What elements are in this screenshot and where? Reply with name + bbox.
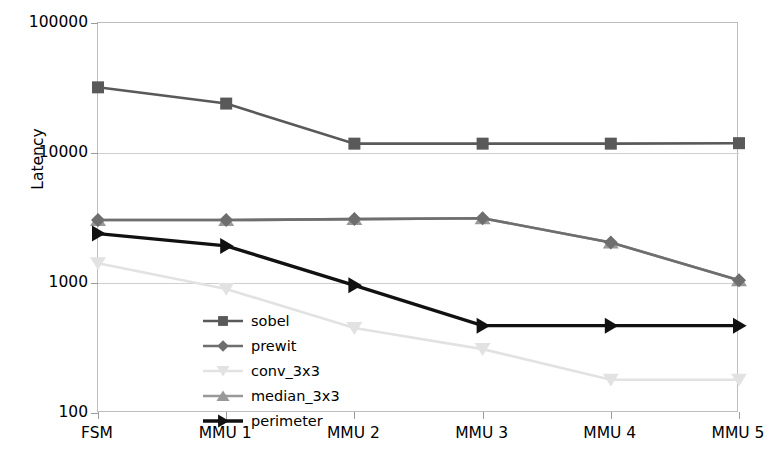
y-tick-mark	[91, 283, 98, 284]
data-point-marker	[92, 81, 104, 93]
series-prewit	[91, 211, 746, 287]
data-point-marker	[348, 138, 360, 150]
legend-item-median_3x3[interactable]: median_3x3	[201, 383, 376, 408]
legend-marker-icon	[201, 337, 245, 355]
y-tick-mark	[91, 23, 98, 24]
x-tick-mark	[739, 412, 740, 419]
series-sobel	[92, 81, 745, 149]
series-line	[98, 87, 739, 143]
x-tick-label: MMU 3	[455, 424, 508, 442]
series-perimeter	[92, 226, 747, 334]
series-line	[98, 263, 739, 380]
series-line	[98, 234, 739, 326]
legend-marker-icon	[201, 362, 245, 380]
data-point-marker	[733, 137, 745, 149]
legend-label: conv_3x3	[251, 363, 320, 379]
data-point-marker	[348, 277, 362, 293]
series-line	[98, 218, 739, 280]
y-tick-label: 100000	[0, 13, 88, 31]
x-tick-label: MMU 1	[199, 424, 252, 442]
plot-area: sobelprewitconv_3x3median_3x3perimeter	[97, 22, 738, 412]
data-point-marker	[217, 340, 228, 351]
x-tick-mark	[483, 412, 484, 419]
legend: sobelprewitconv_3x3median_3x3perimeter	[201, 308, 376, 433]
data-point-marker	[220, 238, 234, 254]
data-point-marker	[605, 138, 617, 150]
legend-item-conv_3x3[interactable]: conv_3x3	[201, 358, 376, 383]
data-point-marker	[477, 318, 491, 334]
legend-label: sobel	[251, 313, 290, 329]
series-conv_3x3	[90, 257, 747, 386]
legend-marker-icon	[201, 387, 245, 405]
x-tick-label: MMU 5	[712, 424, 765, 442]
data-point-marker	[218, 316, 228, 326]
legend-label: perimeter	[251, 413, 323, 429]
data-point-marker	[92, 226, 106, 242]
latency-chart: Latency 100000100001000100 sobelprewitco…	[0, 0, 778, 464]
data-point-marker	[733, 318, 747, 334]
data-point-marker	[477, 138, 489, 150]
series-median_3x3	[90, 211, 747, 286]
y-tick-label: 1000	[0, 273, 88, 291]
series-line	[98, 218, 739, 280]
y-tick-label: 100	[0, 403, 88, 421]
y-tick-mark	[91, 153, 98, 154]
x-tick-mark	[98, 412, 99, 419]
y-axis-title: Latency	[29, 89, 47, 229]
x-tick-label: FSM	[81, 424, 113, 442]
legend-label: median_3x3	[251, 388, 340, 404]
data-point-marker	[220, 98, 232, 110]
legend-item-prewit[interactable]: prewit	[201, 333, 376, 358]
x-tick-label: MMU 4	[583, 424, 636, 442]
legend-label: prewit	[251, 338, 296, 354]
x-tick-mark	[611, 412, 612, 419]
legend-marker-icon	[201, 312, 245, 330]
y-tick-mark	[91, 413, 98, 414]
x-tick-label: MMU 2	[327, 424, 380, 442]
series-layer	[98, 23, 739, 413]
data-point-marker	[605, 318, 619, 334]
legend-item-sobel[interactable]: sobel	[201, 308, 376, 333]
